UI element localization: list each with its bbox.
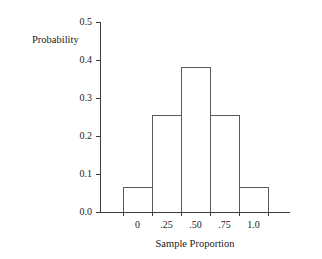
x-axis-title: Sample Proportion — [155, 238, 235, 249]
histogram-figure: 0.00.10.20.30.40.5 0.25.50.751.0 Probabi… — [0, 0, 322, 259]
bar-group — [123, 68, 268, 212]
x-axis-tick-label: .50 — [189, 219, 202, 230]
histogram-bar — [239, 187, 268, 212]
x-axis-tick-label: .25 — [160, 219, 173, 230]
y-axis-title: Probability — [32, 34, 79, 45]
y-axis-tick-label: 0.4 — [80, 54, 93, 65]
histogram-bar — [123, 187, 152, 212]
x-axis-tick-label: 1.0 — [247, 219, 260, 230]
y-axis-tick-label: 0.3 — [80, 92, 93, 103]
y-axis-tick-label: 0.0 — [80, 206, 93, 217]
y-axis-tick-label: 0.2 — [80, 130, 93, 141]
histogram-bar — [210, 115, 239, 212]
y-axis-tick-label: 0.5 — [80, 16, 93, 27]
chart-canvas: 0.00.10.20.30.40.5 0.25.50.751.0 Probabi… — [0, 0, 322, 259]
histogram-bar — [181, 68, 210, 212]
x-axis-tick-group — [123, 212, 268, 216]
y-axis-tick-labels: 0.00.10.20.30.40.5 — [80, 16, 93, 217]
histogram-bar — [152, 115, 181, 212]
y-axis-tick-label: 0.1 — [80, 168, 93, 179]
x-axis-tick-label: .75 — [218, 219, 231, 230]
y-axis-tick-group — [96, 22, 100, 212]
x-axis-tick-labels: 0.25.50.751.0 — [135, 219, 260, 230]
x-axis-tick-label: 0 — [135, 219, 140, 230]
